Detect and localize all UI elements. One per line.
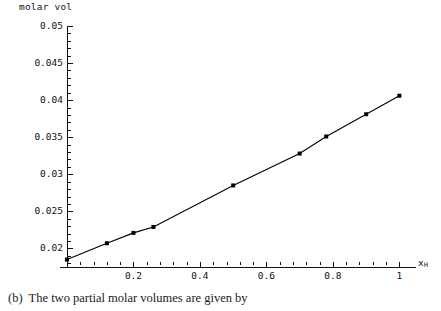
- figure-caption: (b)The two partial molar volumes are giv…: [8, 291, 248, 306]
- data-point: [298, 152, 302, 156]
- data-series: [0, 0, 441, 285]
- data-point: [324, 134, 328, 138]
- plot-area: molar vol xH 0.050.0450.040.0350.030.025…: [0, 0, 441, 285]
- series-line: [67, 96, 399, 260]
- data-point: [397, 94, 401, 98]
- series-markers: [65, 94, 401, 262]
- data-point: [105, 241, 109, 245]
- data-point: [131, 231, 135, 235]
- caption-label: (b): [8, 291, 23, 305]
- caption-text: The two partial molar volumes are given …: [29, 291, 248, 305]
- chart-figure: molar vol xH 0.050.0450.040.0350.030.025…: [0, 0, 441, 311]
- data-point: [231, 183, 235, 187]
- data-point: [364, 112, 368, 116]
- data-point: [65, 258, 69, 262]
- data-point: [151, 225, 155, 229]
